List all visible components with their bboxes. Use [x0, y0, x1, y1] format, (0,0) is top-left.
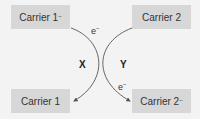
- arrow-x-electron-label: e−: [91, 27, 100, 36]
- electron-transfer-arrows: [0, 0, 200, 119]
- electron-charge: −: [123, 81, 127, 87]
- arrow-x-label: X: [79, 60, 86, 70]
- electron-charge: −: [96, 25, 100, 31]
- arrow-y-electron-label: e−: [118, 83, 127, 92]
- arrow-y-label: Y: [120, 60, 127, 70]
